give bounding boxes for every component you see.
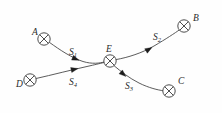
node-d[interactable]: D bbox=[15, 74, 36, 89]
edge-group-s2: S2 bbox=[116, 30, 180, 60]
node-c[interactable]: C bbox=[163, 76, 185, 97]
node-c-label: C bbox=[178, 76, 185, 86]
edge-path-s3 bbox=[114, 66, 163, 91]
edge-group-s1: S1 bbox=[50, 43, 105, 64]
arrow-head-s2 bbox=[145, 45, 154, 53]
node-d-label: D bbox=[15, 79, 23, 89]
edge-label-s1: S1 bbox=[69, 47, 77, 58]
edge-group-s4: S4 bbox=[36, 62, 104, 88]
edge-label-s4-sub: 4 bbox=[74, 81, 78, 88]
edge-path-s2 bbox=[116, 30, 180, 60]
node-e-label: E bbox=[105, 44, 112, 54]
edge-group-s3: S3 bbox=[114, 66, 163, 92]
edge-label-s4: S4 bbox=[69, 77, 78, 88]
node-a-label: A bbox=[31, 27, 38, 37]
edge-label-s3: S3 bbox=[125, 81, 134, 92]
arrow-head-s4 bbox=[71, 66, 79, 73]
node-e[interactable]: E bbox=[104, 44, 116, 67]
node-b-label: B bbox=[193, 13, 199, 23]
node-b[interactable]: B bbox=[178, 13, 199, 32]
diagram-canvas: S1 S2 S3 S4 A bbox=[0, 0, 222, 113]
edge-label-s3-sub: 3 bbox=[129, 85, 134, 92]
diagram-svg: S1 S2 S3 S4 A bbox=[0, 0, 222, 113]
node-a[interactable]: A bbox=[31, 27, 50, 45]
edge-label-s2: S2 bbox=[153, 32, 162, 43]
edge-label-s1-sub: 1 bbox=[74, 51, 77, 58]
